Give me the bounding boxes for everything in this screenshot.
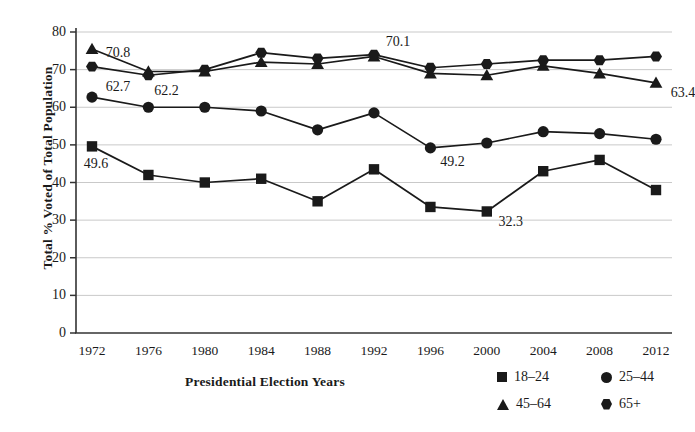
legend-marker-triangle-icon xyxy=(497,399,509,410)
legend-item-triangle: 45–64 xyxy=(497,396,551,412)
legend-label: 45–64 xyxy=(516,396,551,412)
legend-label: 65+ xyxy=(619,396,641,412)
legend-marker-hexagon-icon xyxy=(601,399,612,410)
legend-marker-circle-icon xyxy=(601,372,612,383)
legend-item-hexagon: 65+ xyxy=(601,396,641,412)
legend-label: 25–44 xyxy=(619,369,654,385)
legend-marker-square-icon xyxy=(497,372,507,382)
legend-label: 18–24 xyxy=(514,369,549,385)
legend-item-circle: 25–44 xyxy=(601,369,654,385)
legend-item-square: 18–24 xyxy=(497,369,549,385)
